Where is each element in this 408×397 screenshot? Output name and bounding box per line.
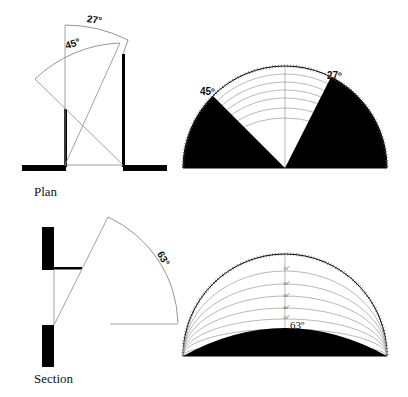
left-wall-bar [22, 165, 66, 171]
section-tick-50: 50º [283, 315, 290, 320]
overhang [54, 267, 82, 270]
left-fin [64, 109, 67, 167]
arc-63 [108, 217, 178, 323]
right-fin [122, 54, 125, 167]
lower-wall-block [42, 325, 54, 367]
section-caption: Section [34, 371, 73, 387]
section-chart-63-label: 63º [290, 319, 304, 331]
plan-sun-chart [183, 66, 387, 168]
section-drawing [42, 217, 178, 367]
right-wall-bar [123, 165, 167, 171]
section-tick-10: 10º [283, 266, 290, 271]
plan-caption: Plan [34, 184, 57, 200]
upper-wall-block [42, 227, 54, 270]
section-tick-20: 20º [283, 281, 290, 286]
section-tick-40: 40º [283, 305, 290, 310]
plan-chart-27-label: 27º [327, 70, 342, 81]
plan-angle-27-label: 27° [86, 13, 103, 26]
arc-45 [35, 43, 120, 79]
section-tick-30: 30º [283, 293, 290, 298]
diagram-canvas [0, 0, 408, 397]
plan-drawing [22, 25, 167, 171]
plan-chart-45-label: 45º [200, 86, 215, 97]
